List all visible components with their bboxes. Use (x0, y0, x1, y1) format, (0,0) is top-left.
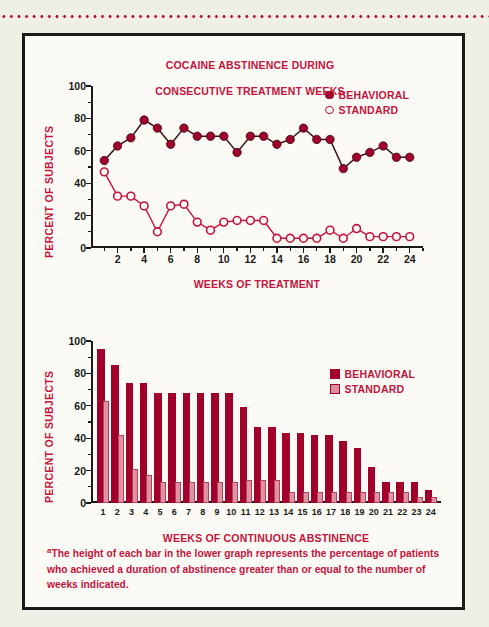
line-chart-x-tick-label: 16 (298, 253, 310, 265)
line-chart-x-tick-label: 12 (245, 253, 257, 265)
data-point-behavioral (193, 132, 201, 140)
data-point-behavioral (113, 142, 121, 150)
bar-standard (175, 482, 181, 503)
line-chart-y-tick-minor (88, 199, 91, 200)
bar-chart-y-tick-minor (88, 389, 91, 390)
legend-item-behavioral: BEHAVIORAL (325, 88, 409, 102)
line-chart-y-tick-label: 0 (80, 242, 86, 254)
line-chart-legend: BEHAVIORAL STANDARD (325, 88, 409, 118)
data-point-behavioral (246, 132, 254, 140)
line-chart-x-tick (143, 248, 144, 253)
bar-chart-x-tick-label: 11 (241, 507, 251, 517)
line-chart-x-tick-label: 8 (194, 253, 200, 265)
line-chart-x-tick (303, 248, 304, 253)
line-chart-x-tick (276, 248, 277, 253)
data-point-standard (366, 233, 374, 241)
line-series-path-standard (104, 172, 409, 238)
open-circle-icon (325, 106, 334, 115)
line-chart-y-tick-label: 20 (74, 210, 86, 222)
bar-chart-x-tick-label: 2 (115, 507, 120, 517)
bar-chart-x-tick-label: 22 (397, 507, 407, 517)
legend-item-standard: STANDARD (325, 103, 409, 117)
bar-chart-x-tick-label: 23 (412, 507, 422, 517)
data-point-standard (207, 226, 215, 234)
bar-chart-x-tick-label: 15 (298, 507, 308, 517)
line-chart-x-tick (409, 248, 410, 253)
data-point-standard (326, 226, 334, 234)
bar-standard (189, 482, 195, 503)
figure-page: COCAINE ABSTINENCE DURING CONSECUTIVE TR… (0, 0, 489, 627)
line-chart-x-tick-minor (157, 248, 158, 251)
bar-chart-x-tick-label: 20 (369, 507, 379, 517)
bar-chart-y-tick (86, 438, 91, 439)
line-chart-x-tick (223, 248, 224, 253)
bar-chart-y-tick-minor (88, 421, 91, 422)
bar-chart-y-tick-minor (88, 486, 91, 487)
bar-chart-y-axis-title: PERCENT OF SUBJECTS (43, 371, 55, 503)
bar-chart-x-tick-label: 19 (355, 507, 365, 517)
bar-standard (374, 492, 380, 503)
line-chart-x-tick (170, 248, 171, 253)
bar-chart-x-tick-label: 24 (426, 507, 436, 517)
data-point-standard (100, 168, 108, 176)
line-chart-y-tick-label: 60 (74, 145, 86, 157)
bar-chart-y-tick (86, 470, 91, 471)
bar-standard (146, 475, 152, 503)
line-chart-panel: COCAINE ABSTINENCE DURING CONSECUTIVE TR… (25, 36, 462, 316)
legend-label-behavioral: BEHAVIORAL (339, 89, 410, 101)
line-chart-x-axis-title: WEEKS OF TREATMENT (91, 278, 423, 290)
data-point-behavioral (259, 132, 267, 140)
line-chart-x-tick-minor (316, 248, 317, 251)
line-chart-x-tick-label: 18 (324, 253, 336, 265)
data-point-standard (180, 200, 188, 208)
bar-chart-x-tick-label: 10 (226, 507, 236, 517)
data-point-standard (220, 218, 228, 226)
bar-standard (431, 497, 437, 503)
figure-frame: COCAINE ABSTINENCE DURING CONSECUTIVE TR… (22, 33, 465, 610)
bar-chart-x-tick-label: 8 (200, 507, 205, 517)
bar-chart-y-tick-label: 20 (74, 465, 86, 477)
bar-standard (360, 492, 366, 503)
data-point-behavioral (233, 148, 241, 156)
data-point-standard (154, 228, 162, 236)
bar-chart-y-tick-label: 80 (74, 367, 86, 379)
line-chart-y-tick-minor (88, 166, 91, 167)
bar-standard (331, 492, 337, 503)
line-chart-x-tick (250, 248, 251, 253)
line-chart-y-axis-title: PERCENT OF SUBJECTS (43, 126, 55, 258)
line-chart-x-tick-label: 14 (271, 253, 283, 265)
bar-chart-x-tick-label: 18 (340, 507, 350, 517)
bar-standard (260, 480, 266, 503)
line-chart-x-tick-minor (422, 248, 423, 251)
data-point-behavioral (366, 148, 374, 156)
bar-chart-x-tick-label: 14 (283, 507, 293, 517)
data-point-behavioral (406, 153, 414, 161)
footnote: aThe height of each bar in the lower gra… (47, 546, 443, 593)
data-point-behavioral (140, 116, 148, 124)
bar-chart-y-axis (91, 341, 93, 503)
data-point-standard (246, 217, 254, 225)
bar-chart-x-tick-label: 12 (255, 507, 265, 517)
data-point-standard (353, 225, 361, 233)
bar-chart-x-tick-label: 4 (143, 507, 148, 517)
data-point-standard (273, 234, 281, 242)
line-chart-y-tick-label: 100 (68, 80, 86, 92)
data-point-behavioral (339, 164, 347, 172)
bar-chart-legend: BEHAVIORAL STANDARD (330, 367, 415, 397)
line-chart-x-tick-minor (236, 248, 237, 251)
line-chart-y-tick (86, 118, 91, 119)
line-chart-title-line1: COCAINE ABSTINENCE DURING (166, 59, 335, 71)
bar-chart-x-tick-label: 16 (312, 507, 322, 517)
data-point-standard (286, 234, 294, 242)
bar-standard (203, 482, 209, 503)
data-point-standard (379, 233, 387, 241)
bar-standard (417, 497, 423, 503)
open-square-icon (330, 384, 340, 394)
line-chart-x-tick (197, 248, 198, 253)
line-chart-x-tick (356, 248, 357, 253)
line-chart-x-tick-label: 2 (115, 253, 121, 265)
data-point-behavioral (286, 135, 294, 143)
data-point-behavioral (273, 140, 281, 148)
line-chart-x-tick-label: 22 (377, 253, 389, 265)
bar-standard (403, 492, 409, 503)
